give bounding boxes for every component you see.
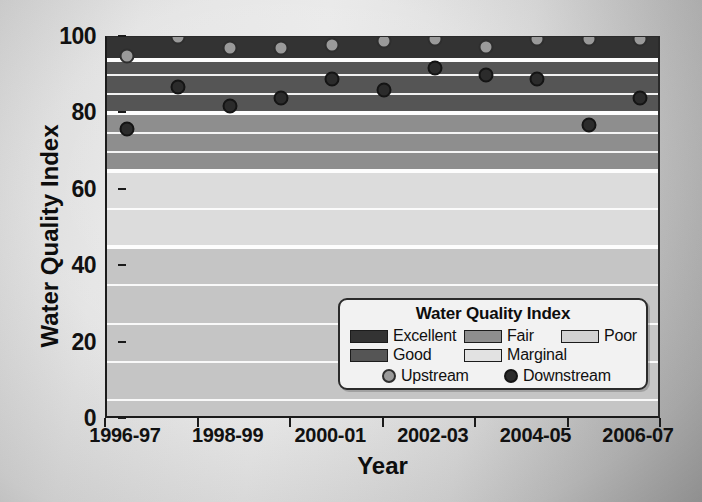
upstream-data-point (222, 41, 237, 56)
x-axis-tick-mark (104, 418, 106, 427)
y-axis-tick-20: 20 (71, 328, 96, 355)
legend-label-poor: Poor (604, 327, 637, 345)
upstream-data-point (479, 39, 494, 54)
x-axis-tick-1996-97: 1996-97 (89, 424, 160, 447)
legend-item-downstream: Downstream (504, 367, 611, 385)
legend-item-upstream: Upstream (382, 367, 469, 385)
legend-label-fair: Fair (507, 327, 534, 345)
downstream-data-point (273, 91, 288, 106)
x-axis-tick-2000-01: 2000-01 (295, 424, 366, 447)
y-axis-tick-mark (118, 264, 126, 266)
legend-label-downstream: Downstream (523, 367, 611, 385)
x-axis-tick-1998-99: 1998-99 (192, 424, 263, 447)
downstream-data-point (427, 60, 442, 75)
x-axis-tick-mark (659, 418, 661, 427)
y-axis-tick-mark (118, 35, 126, 37)
y-axis-tick-mark (118, 341, 126, 343)
upstream-data-point (120, 49, 135, 64)
legend-title: Water Quality Index (346, 304, 640, 324)
upstream-data-point (325, 37, 340, 52)
legend: Water Quality Index Excellent Fair Poor … (338, 298, 648, 390)
legend-swatch-fair (464, 330, 502, 343)
downstream-data-point (376, 83, 391, 98)
gridline (107, 132, 658, 134)
downstream-marker-icon (504, 369, 518, 383)
legend-band-row-2: Good Marginal (346, 346, 640, 365)
downstream-data-point (530, 72, 545, 87)
legend-label-excellent: Excellent (393, 327, 456, 345)
x-axis-tick-mark (382, 418, 384, 427)
x-axis-tick-2006-07: 2006-07 (602, 424, 673, 447)
quality-band-fair (107, 113, 658, 170)
y-axis-tick-80: 80 (71, 99, 96, 126)
upstream-marker-icon (382, 369, 396, 383)
water-quality-index-scatter-chart: 100806040200 Water Quality Index 1996-97… (0, 0, 702, 502)
legend-swatch-poor (561, 330, 599, 343)
x-axis-tick-mark (567, 418, 569, 427)
legend-swatch-marginal (464, 349, 502, 362)
y-axis-title-wrap: Water Quality Index (0, 0, 40, 440)
band-separator (107, 169, 658, 173)
gridline (107, 246, 658, 248)
downstream-data-point (120, 121, 135, 136)
legend-label-good: Good (393, 346, 431, 364)
gridline (107, 151, 658, 153)
gridline (107, 74, 658, 76)
downstream-data-point (479, 68, 494, 83)
x-axis-tick-2002-03: 2002-03 (397, 424, 468, 447)
legend-series-row: Upstream Downstream (346, 367, 640, 388)
legend-item-excellent: Excellent (350, 327, 456, 345)
downstream-data-point (325, 72, 340, 87)
legend-item-poor: Poor (561, 327, 637, 345)
legend-item-fair: Fair (464, 327, 534, 345)
downstream-data-point (581, 117, 596, 132)
y-axis-title: Water Quality Index (36, 36, 64, 436)
gridline (107, 284, 658, 286)
legend-label-upstream: Upstream (401, 367, 469, 385)
band-separator (107, 58, 658, 62)
legend-item-marginal: Marginal (464, 346, 567, 364)
gridline (107, 208, 658, 210)
y-axis-tick-mark (118, 417, 126, 419)
y-axis-tick-60: 60 (71, 175, 96, 202)
x-axis-title: Year (105, 452, 660, 480)
y-axis-tick-mark (118, 111, 126, 113)
y-axis-tick-100: 100 (59, 23, 96, 50)
x-axis-tick-2004-05: 2004-05 (500, 424, 571, 447)
legend-label-marginal: Marginal (507, 346, 567, 364)
x-axis-tick-mark (197, 418, 199, 427)
band-separator (107, 111, 658, 115)
legend-swatch-good (350, 349, 388, 362)
x-axis-tick-mark (289, 418, 291, 427)
legend-swatch-excellent (350, 330, 388, 343)
gridline (107, 399, 658, 401)
legend-band-row-1: Excellent Fair Poor (346, 327, 640, 346)
y-axis-tick-40: 40 (71, 252, 96, 279)
downstream-data-point (222, 98, 237, 113)
upstream-data-point (273, 41, 288, 56)
downstream-data-point (633, 91, 648, 106)
legend-item-good: Good (350, 346, 431, 364)
y-axis-tick-mark (118, 188, 126, 190)
downstream-data-point (171, 79, 186, 94)
x-axis-tick-mark (474, 418, 476, 427)
